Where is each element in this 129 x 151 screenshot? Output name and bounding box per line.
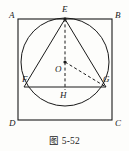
vertex-label-a: A xyxy=(9,11,15,20)
figure-caption: 图 5-52 xyxy=(0,133,129,147)
vertex-label-c: C xyxy=(115,119,121,128)
point-e-marker xyxy=(63,17,66,20)
vertex-label-e: E xyxy=(62,5,68,14)
vertex-label-g: G xyxy=(103,75,110,84)
geometry-figure-container: A B C D E F G H O 图 5-52 xyxy=(0,0,129,151)
vertex-label-d: D xyxy=(9,119,16,128)
segment-eg xyxy=(65,19,106,87)
segment-og-dashed xyxy=(65,62,106,87)
vertex-label-h: H xyxy=(60,91,67,100)
vertex-label-f: F xyxy=(22,75,28,84)
center-label-o: O xyxy=(55,65,62,74)
segment-ef xyxy=(24,19,65,87)
point-o-marker xyxy=(63,60,66,63)
vertex-label-b: B xyxy=(115,11,121,20)
